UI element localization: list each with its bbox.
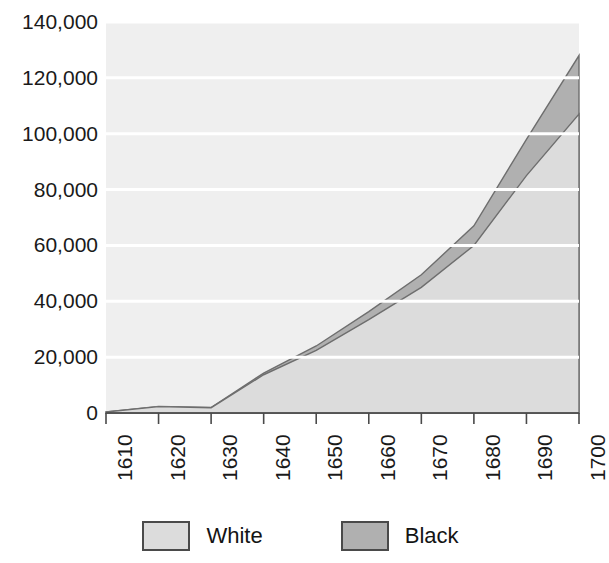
- legend-item-white[interactable]: White: [142, 521, 262, 551]
- legend-label-black: Black: [405, 525, 459, 547]
- x-tick-label-1660: 1660: [377, 434, 398, 481]
- x-tick-label-1640: 1640: [272, 434, 293, 481]
- legend-swatch-white: [142, 521, 190, 551]
- x-tick-label-1620: 1620: [167, 434, 188, 481]
- x-tick-label-1700: 1700: [587, 434, 608, 481]
- x-tick-label-1670: 1670: [429, 434, 450, 481]
- chart-legend: White Black: [0, 512, 601, 560]
- legend-swatch-black: [341, 521, 389, 551]
- x-tick-label-1680: 1680: [482, 434, 503, 481]
- legend-item-black[interactable]: Black: [341, 521, 459, 551]
- legend-label-white: White: [206, 525, 262, 547]
- x-tick-label-1610: 1610: [114, 434, 135, 481]
- x-tick-label-1690: 1690: [534, 434, 555, 481]
- x-tick-label-1650: 1650: [324, 434, 345, 481]
- x-tick-label-1630: 1630: [219, 434, 240, 481]
